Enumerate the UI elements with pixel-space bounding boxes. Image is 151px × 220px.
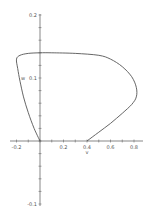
x-tick-label: 0.8 [130, 144, 138, 150]
phase-plot: -0.20.20.40.60.80.20.1-0.1 v w [0, 0, 151, 220]
data-curve [16, 53, 136, 141]
tick-labels: -0.20.20.40.60.80.20.1-0.1 [12, 12, 138, 207]
y-tick-label: 0.2 [29, 12, 37, 18]
x-tick-label: -0.2 [12, 144, 22, 150]
axes [10, 14, 143, 206]
x-tick-label: 0.6 [107, 144, 115, 150]
y-tick-label: -0.1 [27, 201, 37, 207]
axis-ticks [17, 15, 135, 204]
x-axis-label: v [86, 149, 89, 155]
y-axis-label: w [21, 75, 25, 81]
x-tick-label: 0.2 [60, 144, 68, 150]
y-tick-label: 0.1 [29, 75, 37, 81]
